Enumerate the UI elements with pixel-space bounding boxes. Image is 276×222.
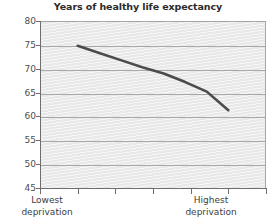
x-tick-mark [153, 189, 154, 194]
x-tick-mark [40, 189, 41, 194]
line-series-healthy-life-expectancy [78, 46, 229, 110]
x-tick-mark [266, 189, 267, 194]
y-tick-label: 65 [10, 88, 36, 98]
x-axis-label-highest-line2: deprivation [166, 207, 256, 219]
y-tick-label: 50 [10, 159, 36, 169]
y-tick-label: 45 [10, 183, 36, 193]
y-tick-label: 60 [10, 111, 36, 121]
x-tick-mark [228, 189, 229, 194]
chart-root: Years of healthy life expectancy 8075706… [0, 0, 276, 222]
x-axis-label-lowest-line1: Lowest [31, 195, 62, 205]
y-tick-label: 70 [10, 64, 36, 74]
x-axis-label-highest: Highest deprivation [166, 195, 256, 218]
x-axis-label-highest-line1: Highest [194, 195, 228, 205]
x-axis-label-lowest: Lowest deprivation [2, 195, 92, 218]
data-series-layer [40, 21, 266, 188]
x-axis-label-lowest-line2: deprivation [2, 207, 92, 219]
x-tick-mark [115, 189, 116, 194]
y-tick-label: 55 [10, 135, 36, 145]
y-tick-label: 75 [10, 40, 36, 50]
x-tick-mark [191, 189, 192, 194]
y-tick-label: 80 [10, 16, 36, 26]
chart-title: Years of healthy life expectancy [0, 1, 276, 12]
x-tick-mark [78, 189, 79, 194]
